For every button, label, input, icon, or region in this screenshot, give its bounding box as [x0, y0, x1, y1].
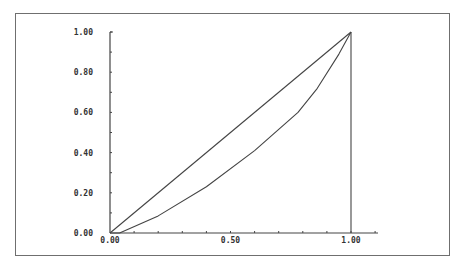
y-tick-label: 1.00	[74, 28, 93, 37]
x-tick-label: 0.50	[221, 236, 240, 245]
series-lines	[110, 32, 351, 233]
y-tick-label: 0.20	[74, 189, 93, 198]
y-tick-label: 0.00	[74, 229, 93, 238]
y-tick-label: 0.80	[74, 68, 93, 77]
y-tick-label: 0.60	[74, 108, 93, 117]
y-tick-label: 0.40	[74, 149, 93, 158]
line-of-equality	[110, 32, 351, 233]
tick-labels: 0.000.200.400.600.801.000.000.501.00	[74, 28, 361, 245]
lorenz-chart: 0.000.200.400.600.801.000.000.501.00	[0, 0, 465, 272]
x-tick-label: 1.00	[341, 236, 360, 245]
axes	[110, 32, 378, 233]
x-tick-label: 0.00	[100, 236, 119, 245]
